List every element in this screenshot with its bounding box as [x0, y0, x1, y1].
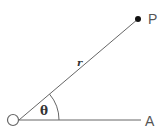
axis-a-label: A: [145, 113, 155, 129]
point-p-label: P: [148, 11, 157, 27]
point-p-dot: [135, 16, 141, 22]
angle-label: θ: [40, 104, 48, 118]
origin-marker: [8, 115, 19, 126]
radius-line: [19, 19, 138, 120]
polar-coordinate-diagram: P A r θ: [0, 0, 168, 136]
radius-label: r: [77, 57, 83, 68]
angle-arc: [50, 94, 60, 120]
